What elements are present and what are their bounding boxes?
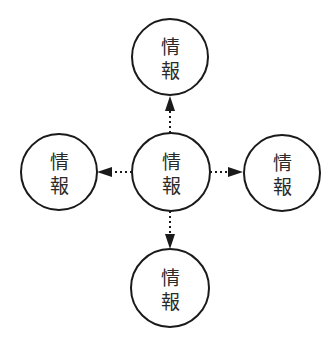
node-bottom-line1: 情	[161, 267, 180, 289]
edge-center-to-bottom	[165, 211, 175, 249]
arrowhead-right-icon	[228, 167, 243, 177]
arrowhead-up-icon	[165, 96, 175, 111]
node-top-line1: 情	[161, 36, 180, 58]
information-diagram: 情 報 情 報 情 報 情 報 情 報	[0, 0, 333, 343]
node-center-line1: 情	[162, 151, 181, 173]
arrowhead-left-icon	[97, 167, 112, 177]
node-top-line2: 報	[161, 60, 180, 82]
node-center: 情 報	[132, 133, 210, 211]
node-left: 情 報	[21, 134, 97, 210]
arrowhead-down-icon	[165, 234, 175, 249]
node-bottom-line2: 報	[161, 291, 180, 313]
node-right-line1: 情	[273, 152, 292, 174]
node-left-line2: 報	[50, 175, 69, 197]
node-bottom: 情 報	[131, 249, 209, 327]
edge-center-to-top	[165, 96, 175, 133]
edge-center-to-left	[97, 167, 132, 177]
node-left-line1: 情	[50, 151, 69, 173]
node-right-line2: 報	[273, 176, 292, 198]
node-top: 情 報	[132, 19, 208, 95]
edge-center-to-right	[210, 167, 243, 177]
node-center-line2: 報	[162, 175, 181, 197]
node-right: 情 報	[244, 135, 320, 211]
